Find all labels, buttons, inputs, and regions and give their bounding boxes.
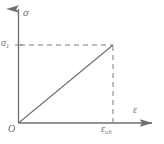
- epsilon-subscript: ult: [105, 128, 112, 135]
- x-axis-label: ε: [133, 105, 137, 115]
- sigma-subscript: 1: [6, 42, 9, 49]
- y-tick-label-sigma1: σ1: [1, 38, 9, 48]
- stress-strain-figure: σ ε σ1 εult O: [0, 0, 164, 144]
- stress-strain-plot: [0, 0, 164, 144]
- y-axis-label: σ: [23, 7, 28, 18]
- stress-strain-curve: [19, 45, 114, 123]
- origin-label: O: [8, 124, 15, 134]
- x-tick-label-epsilon-ult: εult: [101, 124, 112, 134]
